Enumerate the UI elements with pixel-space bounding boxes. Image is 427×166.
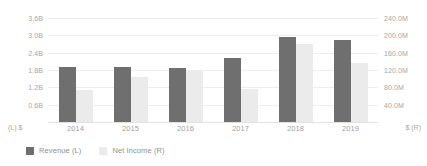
bar-net-income[interactable]: [296, 44, 313, 122]
bar-group: [213, 18, 268, 122]
legend-label: Revenue (L): [39, 146, 81, 155]
chart-legend: Revenue (L)Net Income (R): [26, 146, 165, 155]
left-axis-tick-label: 0.6B: [28, 101, 43, 108]
x-axis-label: 2019: [323, 124, 378, 133]
x-axis-label: 2015: [103, 124, 158, 133]
legend-swatch-icon: [26, 147, 34, 155]
right-axis-tick-label: 200.0M: [384, 32, 408, 39]
bar-group: [103, 18, 158, 122]
bars-layer: [48, 18, 378, 122]
bar-net-income[interactable]: [186, 71, 203, 122]
left-axis-unit-label: (L) $: [8, 124, 22, 131]
dual-axis-bar-chart: 3.6B240.0M3.0B200.0M2.4B160.0M1.8B120.0M…: [0, 0, 427, 166]
x-axis-labels: 201420152016201720182019: [48, 124, 378, 133]
left-axis-tick-label: 2.4B: [28, 49, 43, 56]
bar-net-income[interactable]: [241, 89, 258, 122]
left-axis-tick-label: 3.0B: [28, 32, 43, 39]
bar-group: [48, 18, 103, 122]
left-axis-tick-label: 1.8B: [28, 67, 43, 74]
legend-item[interactable]: Net Income (R): [99, 146, 164, 155]
right-axis-tick-label: 80.0M: [384, 84, 404, 91]
bar-net-income[interactable]: [351, 63, 368, 122]
bar-net-income[interactable]: [76, 90, 93, 122]
right-axis-unit-label: $ (R): [405, 124, 421, 131]
bar-group: [323, 18, 378, 122]
legend-item[interactable]: Revenue (L): [26, 146, 81, 155]
bar-revenue[interactable]: [59, 67, 76, 122]
legend-swatch-icon: [99, 147, 107, 155]
x-axis-label: 2016: [158, 124, 213, 133]
bar-revenue[interactable]: [224, 58, 241, 122]
x-axis-line: [48, 122, 378, 123]
left-axis-tick-label: 1.2B: [28, 84, 43, 91]
right-axis-tick-label: 240.0M: [384, 15, 408, 22]
legend-label: Net Income (R): [112, 146, 164, 155]
right-axis-tick-label: 160.0M: [384, 49, 408, 56]
x-axis-label: 2014: [48, 124, 103, 133]
right-axis-tick-label: 120.0M: [384, 67, 408, 74]
bar-revenue[interactable]: [334, 40, 351, 122]
bar-revenue[interactable]: [279, 37, 296, 122]
bar-group: [268, 18, 323, 122]
right-axis-tick-label: 40.0M: [384, 101, 404, 108]
plot-area: 3.6B240.0M3.0B200.0M2.4B160.0M1.8B120.0M…: [48, 18, 378, 122]
bar-revenue[interactable]: [114, 67, 131, 122]
bar-net-income[interactable]: [131, 77, 148, 122]
bar-group: [158, 18, 213, 122]
x-axis-label: 2018: [268, 124, 323, 133]
bar-revenue[interactable]: [169, 68, 186, 122]
x-axis-label: 2017: [213, 124, 268, 133]
left-axis-tick-label: 3.6B: [28, 15, 43, 22]
